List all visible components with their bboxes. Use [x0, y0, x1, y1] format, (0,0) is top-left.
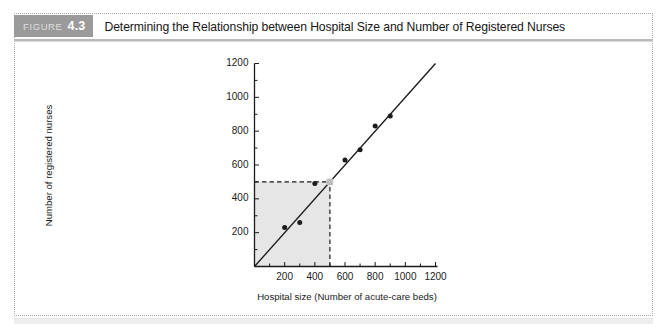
x-tick-label: 200	[268, 271, 302, 282]
data-point	[282, 225, 287, 230]
y-tick-label: 1000	[215, 91, 249, 102]
figure-root: FIGURE 4.3 Determining the Relationship …	[0, 0, 667, 334]
y-axis-title: Number of registered nurses	[43, 71, 54, 261]
chart-plot-area: Hospital size (Number of acute-care beds…	[0, 0, 667, 334]
data-point	[388, 113, 393, 118]
data-point	[297, 220, 302, 225]
figure-bottom-strip	[14, 318, 653, 324]
x-axis-title: Hospital size (Number of acute-care beds…	[232, 291, 462, 302]
data-point	[373, 124, 378, 129]
data-point	[358, 147, 363, 152]
regression-trendline	[255, 64, 436, 267]
y-tick-label: 400	[215, 192, 249, 203]
y-tick-label: 800	[215, 125, 249, 136]
data-point	[312, 181, 317, 186]
x-tick-label: 600	[328, 271, 362, 282]
x-tick-label: 800	[358, 271, 392, 282]
x-tick-label: 1000	[388, 271, 422, 282]
y-tick-label: 600	[215, 159, 249, 170]
data-point	[343, 157, 348, 162]
data-point-predicted	[327, 179, 333, 185]
scatter-chart-svg	[0, 0, 667, 334]
y-tick-label: 1200	[215, 57, 249, 68]
x-tick-label: 400	[298, 271, 332, 282]
y-tick-label: 200	[215, 226, 249, 237]
x-tick-label: 1200	[419, 271, 453, 282]
